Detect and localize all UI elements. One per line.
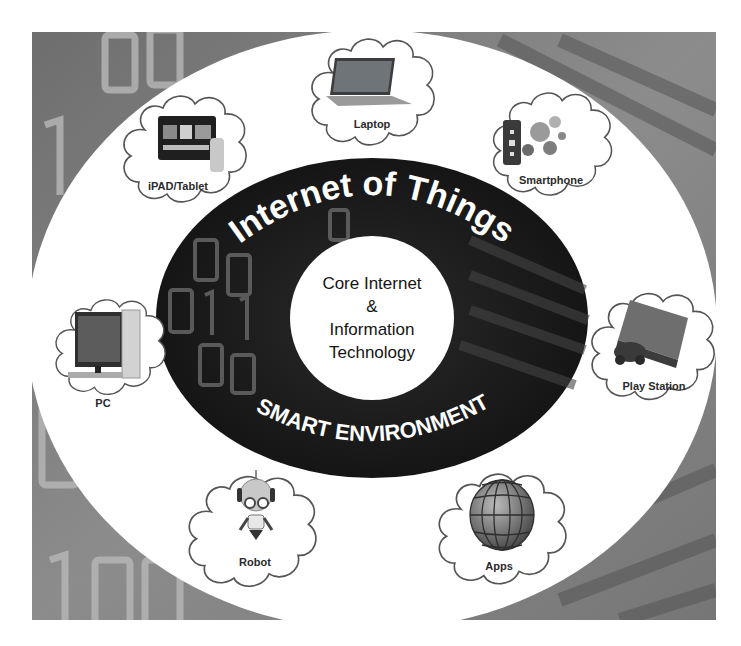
core-line-2: &: [366, 297, 378, 316]
label-ipad: iPAD/Tablet: [148, 180, 208, 192]
iot-diagram: Core Internet & Information Technology I…: [0, 0, 741, 646]
label-playstation: Play Station: [623, 380, 686, 392]
globe-icon: [470, 480, 534, 550]
core-circle: [290, 236, 454, 400]
label-pc: PC: [95, 397, 110, 409]
core-line-4: Technology: [329, 343, 416, 362]
core-line-1: Core Internet: [322, 274, 421, 293]
label-robot: Robot: [239, 556, 271, 568]
label-apps: Apps: [485, 560, 513, 572]
core-line-3: Information: [329, 320, 414, 339]
label-smartphone: Smartphone: [519, 174, 583, 186]
label-laptop: Laptop: [354, 118, 391, 130]
